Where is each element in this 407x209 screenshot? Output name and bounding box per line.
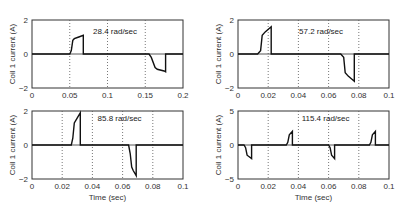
y-tick-label: 5 xyxy=(230,107,235,116)
x-tick-label: 0.08 xyxy=(351,91,367,100)
x-tick-label: 0.06 xyxy=(321,91,337,100)
y-axis-label: Coil 1 current (A) xyxy=(8,114,17,175)
y-tick-label: 0 xyxy=(24,50,29,59)
x-tick-label: 0.08 xyxy=(351,182,367,191)
x-tick-label: 0 xyxy=(236,182,241,191)
x-tick-label: 0.04 xyxy=(291,182,307,191)
y-tick-label: 0 xyxy=(230,141,235,150)
x-tick-label: 0.02 xyxy=(54,182,70,191)
speed-annotation: 57.2 rad/sec xyxy=(299,27,343,36)
figure: 00.050.10.150.220−228.4 rad/secCoil 1 cu… xyxy=(0,0,407,209)
x-tick-label: 0.1 xyxy=(383,91,395,100)
x-tick-label: 0 xyxy=(30,91,35,100)
subplot-2: 00.020.040.060.080.120−257.2 rad/secCoil… xyxy=(214,16,395,100)
speed-annotation: 85.8 rad/sec xyxy=(98,114,142,123)
x-tick-label: 0.08 xyxy=(145,182,161,191)
y-axis-label: Coil 1 current (A) xyxy=(8,23,17,84)
y-tick-label: −5 xyxy=(225,175,235,184)
x-tick-label: 0.1 xyxy=(177,182,189,191)
x-tick-label: 0.05 xyxy=(62,91,78,100)
x-axis-label: Time (sec) xyxy=(89,193,127,202)
x-tick-label: 0.15 xyxy=(137,91,153,100)
x-tick-label: 0.1 xyxy=(102,91,114,100)
x-tick-label: 0.06 xyxy=(115,182,131,191)
x-tick-label: 0.06 xyxy=(321,182,337,191)
subplot-4: 00.020.040.060.080.150−5115.4 rad/secCoi… xyxy=(214,107,395,202)
x-tick-label: 0.04 xyxy=(85,182,101,191)
y-tick-label: 0 xyxy=(230,50,235,59)
x-tick-label: 0.1 xyxy=(383,182,395,191)
x-tick-label: 0.04 xyxy=(291,91,307,100)
x-tick-label: 0.2 xyxy=(177,91,189,100)
subplot-1: 00.050.10.150.220−228.4 rad/secCoil 1 cu… xyxy=(8,16,189,100)
y-tick-label: −2 xyxy=(19,84,29,93)
y-tick-label: 0 xyxy=(24,141,29,150)
y-tick-label: −2 xyxy=(19,175,29,184)
subplot-3: 00.020.040.060.080.120−285.8 rad/secCoil… xyxy=(8,107,189,202)
y-tick-label: 2 xyxy=(24,107,29,116)
x-tick-label: 0.02 xyxy=(260,182,276,191)
y-axis-label: Coil 1 current (A) xyxy=(214,114,223,175)
y-tick-label: 2 xyxy=(24,16,29,25)
speed-annotation: 115.4 rad/sec xyxy=(302,114,350,123)
y-axis-label: Coil 1 current (A) xyxy=(214,23,223,84)
x-tick-label: 0 xyxy=(30,182,35,191)
y-tick-label: 2 xyxy=(230,16,235,25)
x-tick-label: 0 xyxy=(236,91,241,100)
y-tick-label: −2 xyxy=(225,84,235,93)
x-axis-label: Time (sec) xyxy=(295,193,333,202)
speed-annotation: 28.4 rad/sec xyxy=(93,27,137,36)
x-tick-label: 0.02 xyxy=(260,91,276,100)
